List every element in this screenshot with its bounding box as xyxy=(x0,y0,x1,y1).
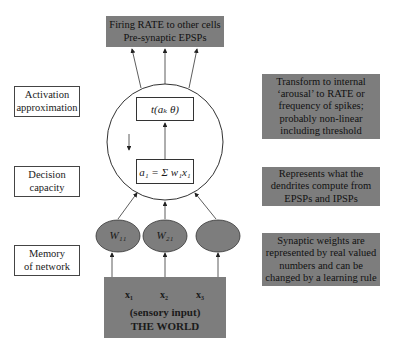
note-line: ‘arousal’ to RATE or xyxy=(277,88,365,100)
world-line-2: THE WORLD xyxy=(104,320,226,334)
note-line: Transform to internal xyxy=(276,76,365,88)
label-line: of network xyxy=(24,261,70,273)
note-line: EPSPs and IPSPs xyxy=(284,193,358,205)
input-x1: x₁ xyxy=(125,289,133,300)
label-line: Decision xyxy=(28,169,65,181)
note-line: including threshold xyxy=(280,125,361,137)
note-line: represented by real valued xyxy=(266,247,377,259)
label-line: Memory xyxy=(29,248,65,260)
label-line: capacity xyxy=(30,182,65,194)
world-line-1: (sensory input) xyxy=(104,306,226,320)
input-x3: x₃ xyxy=(196,289,204,300)
note-line: probably non-linear xyxy=(279,113,362,125)
weight-label-1: W₁₁ xyxy=(96,229,140,241)
output-firing-rate-box: Firing RATE to other cells Pre-synaptic … xyxy=(106,16,224,47)
weighted-sum-box: a₁ = Σ w₁x₁ xyxy=(136,159,194,184)
activation-function-box: t(aₖ θ) xyxy=(136,97,194,121)
note-line: dendrites compute from xyxy=(271,180,371,192)
label-line: Activation xyxy=(25,89,69,101)
weight-label-2: W₂₁ xyxy=(143,229,187,241)
output-line-2: Pre-synaptic EPSPs xyxy=(123,32,206,44)
label-activation-approximation: Activation approximation xyxy=(14,86,80,117)
note-line: frequency of spikes; xyxy=(278,100,363,112)
weight-node-3 xyxy=(196,220,240,252)
note-transform: Transform to internal ‘arousal’ to RATE … xyxy=(262,74,380,139)
note-synaptic-weights: Synaptic weights are represented by real… xyxy=(262,233,380,286)
world-caption: (sensory input) THE WORLD xyxy=(104,306,226,334)
note-line: numbers and can be xyxy=(279,260,363,272)
note-dendrites: Represents what the dendrites compute fr… xyxy=(262,167,380,206)
note-line: changed by a learning rule xyxy=(265,272,376,284)
output-line-1: Firing RATE to other cells xyxy=(109,19,220,31)
note-line: Represents what the xyxy=(279,168,364,180)
label-decision-capacity: Decision capacity xyxy=(14,166,80,197)
label-line: approximation xyxy=(16,102,77,114)
note-line: Synaptic weights are xyxy=(277,235,364,247)
label-memory-of-network: Memory of network xyxy=(14,245,80,276)
input-x2: x₂ xyxy=(160,289,168,300)
